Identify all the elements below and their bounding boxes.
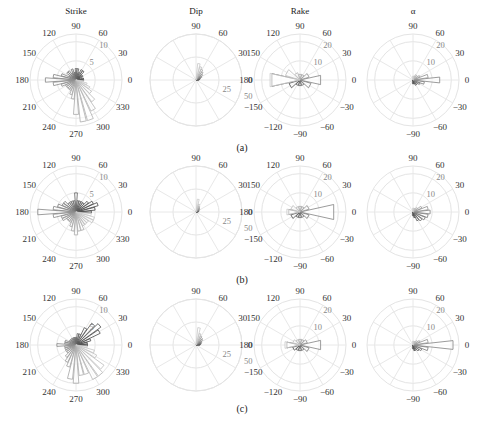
rose-rake-0: 0306090120150180−150−120−90−60−301020Rak… xyxy=(239,6,357,139)
radial-tick-label: 10 xyxy=(427,189,436,199)
angle-tick-label: 150 xyxy=(22,313,36,323)
angle-tick-label: 270 xyxy=(69,394,83,404)
angle-tick-label: 120 xyxy=(266,160,280,170)
angle-tick-label: 0 xyxy=(128,75,133,85)
angle-tick-label: 90 xyxy=(192,21,202,31)
angle-tick-label: −120 xyxy=(264,254,283,264)
angle-tick-label: −60 xyxy=(320,387,335,397)
angle-tick-label: 120 xyxy=(42,293,56,303)
angle-tick-label: −60 xyxy=(433,387,448,397)
angle-tick-label: 60 xyxy=(436,160,446,170)
angle-tick-label: 90 xyxy=(72,153,82,163)
angle-tick-label: −90 xyxy=(293,129,308,139)
rose-dip-1: 03060902550 xyxy=(150,153,253,258)
row-caption: (a) xyxy=(236,142,247,154)
rose-alpha-2: 0306090−90−60−301020 xyxy=(367,286,470,404)
radial-tick-label: 20 xyxy=(323,172,332,182)
angle-tick-label: 90 xyxy=(296,153,306,163)
angle-tick-label: 60 xyxy=(99,28,109,38)
angle-tick-label: 300 xyxy=(96,122,110,132)
row-caption: (b) xyxy=(236,274,248,286)
radial-tick-label: 5 xyxy=(90,189,94,199)
angle-tick-label: −30 xyxy=(340,234,355,244)
angle-tick-label: 0 xyxy=(352,207,357,217)
angle-tick-label: 30 xyxy=(455,180,465,190)
angle-tick-label: 120 xyxy=(42,28,56,38)
radial-tick-label: 10 xyxy=(427,57,436,67)
angle-tick-label: 180 xyxy=(15,75,29,85)
radial-tick-label: 5 xyxy=(90,57,94,67)
angle-tick-label: 30 xyxy=(342,313,352,323)
angle-tick-label: 90 xyxy=(192,286,202,296)
rose-alpha-0: 0306090−90−60−301020α xyxy=(367,6,470,139)
row-caption: (c) xyxy=(236,403,247,415)
angle-tick-label: 0 xyxy=(465,340,470,350)
angle-tick-label: 60 xyxy=(219,293,229,303)
angle-tick-label: 180 xyxy=(239,207,253,217)
angle-tick-label: −120 xyxy=(264,122,283,132)
angle-tick-label: −150 xyxy=(244,234,263,244)
angle-tick-label: 330 xyxy=(116,102,130,112)
angle-tick-label: 60 xyxy=(323,293,333,303)
angle-tick-label: 300 xyxy=(96,387,110,397)
angle-tick-label: 210 xyxy=(22,234,36,244)
angle-tick-label: −30 xyxy=(340,102,355,112)
angle-tick-label: 270 xyxy=(69,261,83,271)
radial-tick-label: 20 xyxy=(323,40,332,50)
angle-tick-label: 0 xyxy=(352,75,357,85)
rose-strike-1: 0306090120150180210240270300330510 xyxy=(15,153,133,271)
angle-tick-label: −60 xyxy=(320,122,335,132)
radial-tick-label: 50 xyxy=(244,91,253,101)
radial-tick-label: 20 xyxy=(436,40,445,50)
angle-tick-label: −90 xyxy=(406,394,421,404)
rose-dip-0: 03060902550Dip xyxy=(150,6,253,126)
rose-rake-2: 0306090120150180−150−120−90−60−301020 xyxy=(239,286,357,404)
angle-tick-label: 30 xyxy=(118,313,128,323)
angle-tick-label: 210 xyxy=(22,367,36,377)
angle-tick-label: −30 xyxy=(453,102,468,112)
angle-tick-label: 0 xyxy=(465,207,470,217)
angle-tick-label: 180 xyxy=(15,207,29,217)
radial-tick-label: 20 xyxy=(436,305,445,315)
angle-tick-label: 330 xyxy=(116,234,130,244)
angle-tick-label: 60 xyxy=(99,293,109,303)
angle-tick-label: 60 xyxy=(436,28,446,38)
column-title-rake: Rake xyxy=(291,6,310,16)
angle-tick-label: 90 xyxy=(296,286,306,296)
angle-tick-label: 60 xyxy=(219,160,229,170)
angle-tick-label: −60 xyxy=(320,254,335,264)
angle-tick-label: −60 xyxy=(433,122,448,132)
radial-tick-label: 20 xyxy=(436,172,445,182)
angle-tick-label: 90 xyxy=(409,153,419,163)
angle-tick-label: 150 xyxy=(246,48,260,58)
angle-tick-label: 90 xyxy=(409,286,419,296)
radial-tick-label: 10 xyxy=(99,305,108,315)
angle-tick-label: 60 xyxy=(323,28,333,38)
angle-tick-label: 30 xyxy=(118,48,128,58)
angle-tick-label: −150 xyxy=(244,367,263,377)
angle-tick-label: −90 xyxy=(406,129,421,139)
angle-tick-label: −150 xyxy=(244,102,263,112)
angle-tick-label: 30 xyxy=(455,313,465,323)
angle-tick-label: 90 xyxy=(72,286,82,296)
angle-tick-label: 180 xyxy=(239,75,253,85)
angle-tick-label: 0 xyxy=(128,340,133,350)
angle-tick-label: 180 xyxy=(239,340,253,350)
rose-alpha-1: 0306090−90−60−301020 xyxy=(367,153,470,271)
angle-tick-label: 60 xyxy=(436,293,446,303)
radial-tick-label: 10 xyxy=(99,172,108,182)
angle-tick-label: −30 xyxy=(340,367,355,377)
angle-tick-label: 0 xyxy=(128,207,133,217)
angle-tick-label: −30 xyxy=(453,234,468,244)
angle-tick-label: 150 xyxy=(246,313,260,323)
angle-tick-label: 240 xyxy=(42,122,56,132)
radial-tick-label: 10 xyxy=(314,57,323,67)
angle-tick-label: 300 xyxy=(96,254,110,264)
radial-tick-label: 10 xyxy=(99,40,108,50)
angle-tick-label: 150 xyxy=(22,180,36,190)
column-title-alpha: α xyxy=(411,6,416,16)
angle-tick-label: 60 xyxy=(323,160,333,170)
radial-tick-label: 50 xyxy=(244,223,253,233)
angle-tick-label: 60 xyxy=(99,160,109,170)
angle-tick-label: 60 xyxy=(219,28,229,38)
